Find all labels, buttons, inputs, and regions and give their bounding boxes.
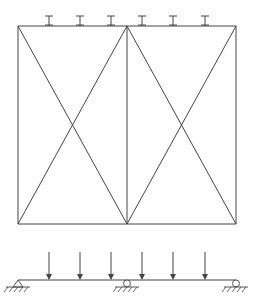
- i-load-marker-icon: [107, 16, 115, 26]
- i-load-marker-icon: [138, 16, 146, 26]
- down-arrow-icon: [202, 252, 208, 280]
- pin-support-icon: [4, 280, 30, 292]
- i-load-marker-icon: [169, 16, 177, 26]
- roller-support-icon: [113, 280, 139, 292]
- braced-frame: [18, 26, 236, 224]
- top-load-markers: [45, 16, 209, 26]
- ground-hatch: [19, 287, 23, 292]
- ground-hatch: [222, 287, 226, 292]
- continuous-beam: [4, 252, 248, 292]
- down-arrow-icon: [77, 252, 83, 280]
- i-load-marker-icon: [45, 16, 53, 26]
- roller-circle: [124, 280, 131, 287]
- ground-hatch: [9, 287, 13, 292]
- ground-hatch: [14, 287, 18, 292]
- arrow-head: [46, 274, 52, 280]
- ground-hatch: [113, 287, 117, 292]
- down-arrow-icon: [108, 252, 114, 280]
- arrow-head: [170, 274, 176, 280]
- ground-hatch: [123, 287, 127, 292]
- down-arrow-icon: [46, 252, 52, 280]
- ground-hatch: [4, 287, 8, 292]
- arrow-head: [139, 274, 145, 280]
- i-load-marker-icon: [201, 16, 209, 26]
- arrow-head: [108, 274, 114, 280]
- structural-diagram: [0, 0, 258, 306]
- down-arrow-icon: [170, 252, 176, 280]
- ground-hatch: [118, 287, 122, 292]
- arrow-head: [202, 274, 208, 280]
- ground-hatch: [237, 287, 241, 292]
- ground-hatch: [133, 287, 137, 292]
- ground-hatch: [24, 287, 28, 292]
- ground-hatch: [242, 287, 246, 292]
- roller-circle: [233, 280, 240, 287]
- ground-hatch: [128, 287, 132, 292]
- pin-triangle: [13, 280, 23, 287]
- roller-support-icon: [222, 280, 248, 292]
- arrow-head: [77, 274, 83, 280]
- ground-hatch: [232, 287, 236, 292]
- ground-hatch: [227, 287, 231, 292]
- down-arrow-icon: [139, 252, 145, 280]
- i-load-marker-icon: [76, 16, 84, 26]
